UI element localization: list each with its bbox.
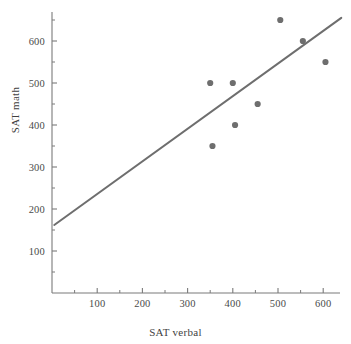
y-axis-ticks xyxy=(52,20,57,272)
x-tick-label: 400 xyxy=(225,298,241,309)
x-axis-title: SAT verbal xyxy=(0,326,351,338)
data-point-5 xyxy=(277,17,283,23)
x-tick-label: 100 xyxy=(89,298,105,309)
y-tick-label: 300 xyxy=(29,162,45,173)
y-axis-title: SAT math xyxy=(9,65,21,155)
x-tick-label: 200 xyxy=(134,298,150,309)
data-point-4 xyxy=(255,101,261,107)
x-tick-label: 600 xyxy=(315,298,331,309)
y-tick-label: 600 xyxy=(29,36,45,47)
x-axis-ticks xyxy=(75,288,324,293)
data-point-0 xyxy=(207,80,213,86)
scatter-chart: 100200300400500600 100200300400500600 SA… xyxy=(0,0,351,344)
data-point-1 xyxy=(209,143,215,149)
axes xyxy=(52,12,340,293)
data-point-3 xyxy=(232,122,238,128)
x-tick-label: 300 xyxy=(179,298,195,309)
y-tick-label: 100 xyxy=(29,246,45,257)
data-point-7 xyxy=(322,59,328,65)
data-points xyxy=(207,17,328,149)
y-tick-label: 500 xyxy=(29,78,45,89)
data-point-6 xyxy=(300,38,306,44)
y-tick-label: 400 xyxy=(29,120,45,131)
x-tick-label: 500 xyxy=(270,298,286,309)
data-point-2 xyxy=(230,80,236,86)
regression-line-segment xyxy=(54,18,341,225)
regression-line xyxy=(54,18,341,225)
y-tick-label: 200 xyxy=(29,204,45,215)
plot-area xyxy=(0,0,351,344)
